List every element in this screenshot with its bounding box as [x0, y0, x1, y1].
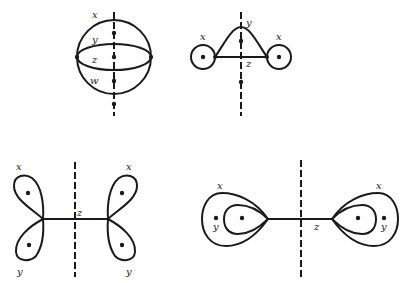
inner-lobe-left	[224, 205, 268, 234]
lobe-dot	[27, 243, 31, 247]
figure-four-lobes: x x y y z	[14, 161, 137, 277]
label-z: z	[91, 54, 98, 65]
label-x: x	[92, 9, 98, 20]
label-y-left: y	[16, 266, 23, 277]
label-x-right: x	[376, 180, 382, 191]
label-y: y	[91, 34, 98, 45]
label-y-right: y	[125, 266, 132, 277]
lobe-upper-left	[14, 176, 43, 219]
label-z: z	[76, 207, 83, 218]
axis-dot	[112, 79, 116, 83]
lobe-lower-left	[16, 219, 43, 260]
label-y: y	[245, 17, 252, 28]
lobe-dot	[26, 191, 30, 195]
figure-nested-lobes: x x y y z	[202, 160, 398, 277]
axis-dot	[112, 55, 116, 59]
label-x-left: x	[200, 31, 206, 42]
outer-lobe-right	[332, 193, 398, 246]
junction-dot	[265, 55, 269, 59]
label-y-right: y	[380, 221, 387, 232]
label-x-right: x	[276, 31, 282, 42]
nucleus-dot	[277, 55, 281, 59]
label-z: z	[313, 221, 320, 232]
junction-dot	[213, 55, 217, 59]
axis-dot	[239, 39, 243, 43]
node-dot	[149, 55, 153, 59]
axis-dot	[112, 102, 116, 106]
axis-dot	[112, 31, 116, 35]
label-x-left: x	[217, 180, 223, 191]
lobe-dot	[120, 243, 124, 247]
inner-dot	[356, 216, 360, 220]
label-x-left: x	[16, 161, 22, 172]
inner-lobe-right	[332, 205, 376, 234]
label-x-right: x	[126, 161, 132, 172]
outer-dot	[382, 216, 386, 220]
nucleus-dot	[201, 55, 205, 59]
outer-lobe-left	[202, 193, 268, 246]
orbital-diagrams: x y z w x x y z x x	[0, 0, 405, 283]
lobe-lower-right	[108, 219, 135, 260]
label-z: z	[245, 58, 252, 69]
label-w: w	[90, 75, 99, 86]
inner-dot	[240, 216, 244, 220]
figure-bent-bond: x x y z	[191, 12, 291, 116]
label-y-left: y	[212, 221, 219, 232]
figure-sphere: x y z w	[75, 9, 153, 116]
outer-dot	[214, 216, 218, 220]
node-dot	[75, 55, 79, 59]
lobe-upper-right	[108, 176, 137, 219]
lobe-dot	[120, 191, 124, 195]
axis-dot	[239, 80, 243, 84]
